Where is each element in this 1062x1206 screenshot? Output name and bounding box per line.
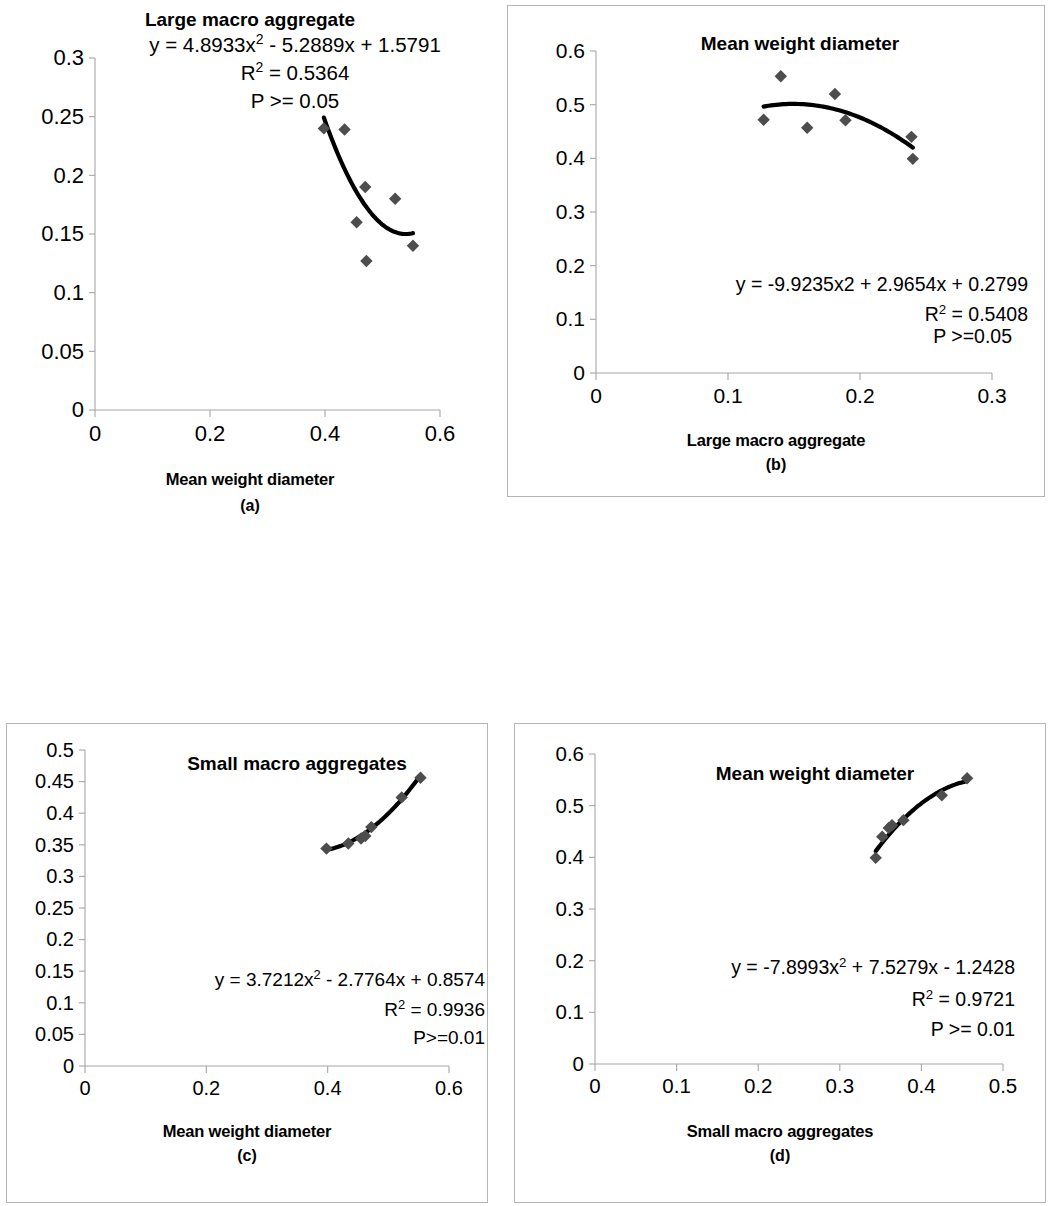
data-point — [801, 122, 813, 134]
x-axis-tick-label: 0.2 — [845, 384, 874, 407]
data-point — [829, 88, 841, 100]
y-axis-tick-label: 0.2 — [53, 163, 84, 188]
y-axis-tick-label: 0 — [573, 1052, 584, 1075]
x-axis-label-a: Mean weight diameter — [0, 470, 500, 489]
chart-title: Small macro aggregates — [187, 753, 407, 774]
y-axis-tick-label: 0.1 — [556, 307, 585, 330]
y-axis-tick-label: 0.3 — [53, 45, 84, 70]
x-axis-tick-label: 0.1 — [662, 1074, 691, 1097]
r-squared-line: R2 = 0.9936 — [384, 997, 485, 1021]
p-value-line: P >= 0.05 — [251, 89, 340, 112]
y-axis-tick-label: 0.2 — [556, 254, 585, 277]
y-axis-tick-label: 0.6 — [556, 39, 585, 62]
equation-line: y = -9.9235x2 + 2.9654x + 0.2799 — [736, 273, 1028, 295]
y-axis-tick-label: 0.3 — [556, 897, 585, 920]
y-axis-tick-label: 0.35 — [35, 834, 74, 856]
y-axis-tick-label: 0.2 — [556, 949, 585, 972]
equation-line: y = 3.7212x2 - 2.7764x + 0.8574 — [215, 967, 486, 991]
equation-annotation: y = -9.9235x2 + 2.9654x + 0.2799R2 = 0.5… — [736, 273, 1028, 347]
x-axis-tick-label: 0.4 — [310, 421, 341, 446]
data-point — [389, 193, 401, 205]
y-axis-tick-label: 0 — [63, 1055, 74, 1077]
chart-title: Mean weight diameter — [716, 763, 915, 784]
panel-letter-d: (d) — [515, 1147, 1045, 1165]
x-axis-tick-label: 0.2 — [744, 1074, 773, 1097]
y-axis-tick-label: 0 — [573, 361, 585, 384]
x-axis-tick-label: 0.5 — [989, 1074, 1018, 1097]
y-axis-tick-label: 0.05 — [35, 1023, 74, 1045]
x-axis-label-c: Mean weight diameter — [7, 1122, 487, 1141]
p-value-line: P>=0.01 — [413, 1027, 485, 1048]
equation-line: y = 4.8933x2 - 5.2889x + 1.5791 — [149, 31, 441, 56]
data-point — [360, 255, 372, 267]
data-point — [320, 842, 332, 854]
y-axis-tick-label: 0.25 — [41, 104, 84, 129]
trendline — [876, 781, 967, 851]
y-axis-tick-label: 0.25 — [35, 897, 74, 919]
x-axis-tick-label: 0.3 — [977, 384, 1006, 407]
x-axis-tick-label: 0.6 — [425, 421, 456, 446]
data-point-series — [870, 772, 974, 864]
x-axis-tick-label: 0.2 — [195, 421, 226, 446]
x-axis-tick-label: 0 — [79, 1077, 90, 1099]
equation-annotation: y = 4.8933x2 - 5.2889x + 1.5791R2 = 0.53… — [149, 31, 441, 112]
y-axis-tick-label: 0.05 — [41, 339, 84, 364]
equation-line: y = -7.8993x2 + 7.5279x - 1.2428 — [731, 955, 1015, 979]
data-point — [870, 852, 882, 864]
x-axis-tick-label: 0 — [590, 384, 602, 407]
y-axis-tick-label: 0.1 — [53, 280, 84, 305]
y-axis-tick-label: 0.3 — [46, 865, 74, 887]
x-axis-tick-label: 0.1 — [713, 384, 742, 407]
data-point — [359, 181, 371, 193]
y-axis-tick-label: 0.1 — [46, 992, 74, 1014]
y-axis-tick-label: 0.2 — [46, 928, 74, 950]
data-point — [907, 153, 919, 165]
data-point — [338, 123, 350, 135]
scatter-plot-c: 00.050.10.150.20.250.30.350.40.450.500.2… — [7, 724, 487, 1122]
data-point — [757, 113, 769, 125]
chart-title: Mean weight diameter — [701, 33, 900, 54]
y-axis-tick-label: 0.5 — [556, 93, 585, 116]
p-value-line: P >=0.05 — [933, 325, 1012, 347]
x-axis-tick-label: 0.4 — [314, 1077, 342, 1099]
data-point-series — [757, 70, 919, 165]
chart-panel-c: 00.050.10.150.20.250.30.350.40.450.500.2… — [6, 723, 488, 1203]
y-axis-tick-label: 0.5 — [46, 739, 74, 761]
x-axis-tick-label: 0.3 — [826, 1074, 855, 1097]
x-axis-label-d: Small macro aggregates — [515, 1122, 1045, 1141]
data-point — [876, 830, 888, 842]
r-squared-line: R2 = 0.5408 — [925, 302, 1028, 326]
data-point-series — [320, 772, 426, 855]
data-point — [407, 240, 419, 252]
y-axis-tick-label: 0.15 — [41, 221, 84, 246]
y-axis-tick-label: 0.4 — [556, 146, 586, 169]
y-axis-tick-label: 0.1 — [556, 1000, 585, 1023]
chart-panel-d: 00.10.20.30.40.50.600.10.20.30.40.5Mean … — [514, 723, 1046, 1203]
equation-annotation: y = -7.8993x2 + 7.5279x - 1.2428R2 = 0.9… — [731, 955, 1015, 1041]
panel-letter-a: (a) — [0, 497, 500, 515]
scatter-plot-a: 00.050.10.150.20.250.300.20.40.6Large ma… — [0, 0, 500, 470]
x-axis-tick-label: 0.2 — [192, 1077, 220, 1099]
chart-title: Large macro aggregate — [145, 9, 355, 30]
scatter-plot-b: 00.10.20.30.40.50.600.10.20.3Mean weight… — [508, 6, 1044, 431]
x-axis-tick-label: 0.6 — [435, 1077, 463, 1099]
panel-letter-c: (c) — [7, 1147, 487, 1165]
y-axis-tick-label: 0.4 — [46, 802, 74, 824]
x-axis-tick-label: 0 — [589, 1074, 600, 1097]
chart-panel-a: 00.050.10.150.20.250.300.20.40.6Large ma… — [0, 0, 500, 530]
x-axis-tick-label: 0.4 — [907, 1074, 936, 1097]
y-axis-tick-label: 0.3 — [556, 200, 585, 223]
r-squared-line: R2 = 0.5364 — [241, 59, 350, 84]
x-axis-tick-label: 0 — [89, 421, 101, 446]
panel-letter-b: (b) — [508, 456, 1044, 474]
y-axis-tick-label: 0.15 — [35, 960, 74, 982]
y-axis-tick-label: 0.45 — [35, 770, 74, 792]
trendline — [326, 775, 420, 850]
y-axis-tick-label: 0 — [72, 397, 84, 422]
y-axis-tick-label: 0.6 — [556, 742, 585, 765]
p-value-line: P >= 0.01 — [931, 1018, 1015, 1040]
r-squared-line: R2 = 0.9721 — [912, 987, 1015, 1011]
data-point — [775, 70, 787, 82]
x-axis-label-b: Large macro aggregate — [508, 431, 1044, 450]
trendline — [324, 118, 413, 234]
